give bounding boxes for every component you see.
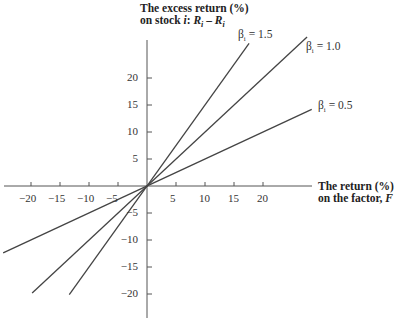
y-tick-label: 20 <box>127 71 138 83</box>
y-title-minus: – <box>203 14 215 26</box>
y-title-r1: R <box>193 14 201 26</box>
y-tick-label: −20 <box>121 287 138 299</box>
x-tick-label: 15 <box>228 192 239 204</box>
y-tick-label: −5 <box>126 206 138 218</box>
x-title-var: F <box>385 192 393 204</box>
beta-value: = 1.5 <box>249 28 273 40</box>
x-axis-title-line2: on the factor, F <box>318 192 394 204</box>
series-lines <box>3 37 312 295</box>
x-tick-label: −15 <box>48 192 65 204</box>
y-axis-title: The excess return (%) on stock i: Ri – R… <box>140 2 249 31</box>
y-axis-title-line1: The excess return (%) <box>140 2 249 14</box>
y-tick-label: −15 <box>121 260 138 272</box>
beta-value: = 0.5 <box>329 99 353 111</box>
beta-sub: i <box>312 47 314 55</box>
beta-sub: i <box>324 106 326 114</box>
x-tick-label: 10 <box>199 192 210 204</box>
y-axis-title-line2: on stock i: Ri – Ri <box>140 14 249 31</box>
y-tick-label: 10 <box>127 125 138 137</box>
x-axis-title: The return (%) on the factor, F <box>318 180 394 204</box>
x-title-text: on the factor, <box>318 192 385 204</box>
beta-value: = 1.0 <box>317 40 341 52</box>
x-axis-title-line1: The return (%) <box>318 180 394 192</box>
y-title-text: on stock <box>140 14 183 26</box>
legend-beta-1-5: βi = 1.5 <box>238 28 272 43</box>
legend-beta-0-5: βi = 0.5 <box>318 99 352 114</box>
series-line-beta-1-5 <box>69 43 249 294</box>
legend-beta-1-0: βi = 1.0 <box>306 40 340 55</box>
series-line-beta-1 <box>32 37 307 293</box>
series-line-beta-0-5 <box>3 109 312 253</box>
y-tick-label: 5 <box>133 152 139 164</box>
x-tick-label: −10 <box>77 192 94 204</box>
x-tick-label: −5 <box>106 192 118 204</box>
y-title-sub2: i <box>222 20 224 29</box>
y-tick-label: −10 <box>121 233 138 245</box>
y-tick-label: 15 <box>127 98 138 110</box>
x-tick-label: −20 <box>19 192 36 204</box>
beta-sub: i <box>244 35 246 43</box>
x-tick-label: 5 <box>170 192 176 204</box>
x-tick-label: 20 <box>257 192 268 204</box>
